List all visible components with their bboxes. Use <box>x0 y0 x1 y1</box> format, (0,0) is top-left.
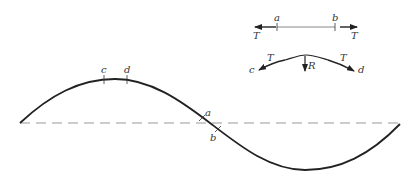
inset-curved-segment: T T R c d <box>249 52 364 75</box>
inset2-label-T-left: T <box>267 52 275 63</box>
label-c: c <box>101 64 107 75</box>
inset1-label-b: b <box>332 12 338 23</box>
inset-straight-segment: a b T T <box>253 12 359 41</box>
label-b: b <box>210 132 216 143</box>
inset1-label-a: a <box>274 12 280 23</box>
inset2-label-c: c <box>249 64 255 75</box>
inset2-label-T-right: T <box>340 52 348 63</box>
wave-curve <box>20 79 400 170</box>
inset2-label-R: R <box>307 60 316 71</box>
string-wave-diagram: c d a b a b T T T T R c d <box>0 0 414 179</box>
inset2-label-d: d <box>358 64 364 75</box>
label-a: a <box>205 107 211 118</box>
inset1-label-T-left: T <box>253 30 261 41</box>
inset1-label-T-right: T <box>351 30 359 41</box>
label-d: d <box>124 64 130 75</box>
